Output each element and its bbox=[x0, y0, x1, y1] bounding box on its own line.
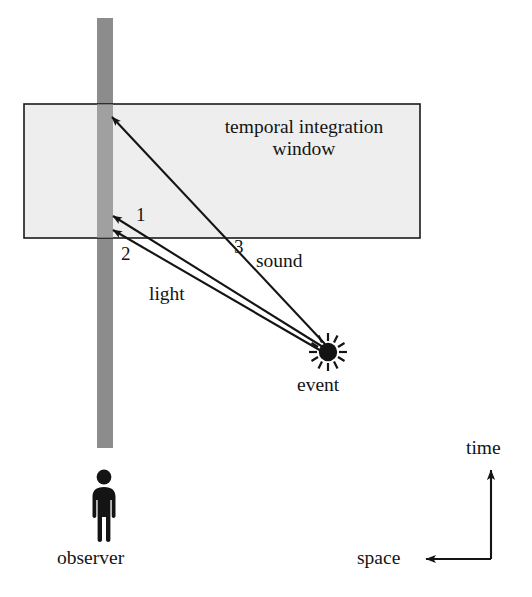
diagram-canvas bbox=[0, 0, 532, 597]
observer-pictogram-icon bbox=[93, 470, 116, 542]
observer-worldline-in-window bbox=[97, 104, 113, 238]
sound-label: sound bbox=[256, 250, 303, 272]
ray-2-label: 2 bbox=[121, 243, 131, 264]
observer-label: observer bbox=[57, 547, 124, 569]
light-ray-2 bbox=[113, 230, 323, 352]
ray-3-label: 3 bbox=[234, 236, 244, 257]
temporal-integration-window-label: temporal integration window bbox=[196, 116, 412, 160]
time-axis-label: time bbox=[466, 437, 501, 459]
ray-1-label: 1 bbox=[136, 204, 146, 225]
spacetime-diagram-figure: temporal integration window 1 2 3 sound … bbox=[0, 0, 532, 597]
light-label: light bbox=[149, 283, 185, 305]
event-starburst-icon bbox=[309, 333, 347, 371]
event-label: event bbox=[297, 374, 339, 396]
space-axis-label: space bbox=[357, 547, 400, 569]
axis-indicator bbox=[426, 470, 491, 559]
